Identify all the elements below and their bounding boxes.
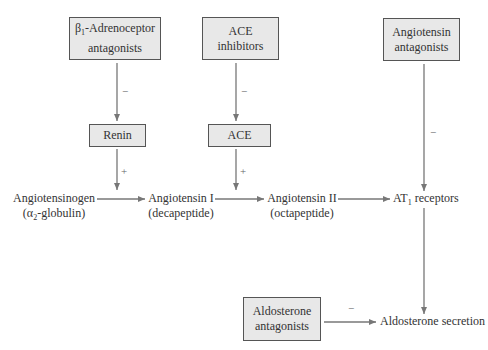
angiotensin-i-label: Angiotensin I: [145, 191, 217, 206]
ace-box: ACE: [208, 124, 271, 147]
ace-inhibitors-line1: ACE: [217, 24, 263, 39]
aldosterone-antagonists-line1: Aldosterone: [253, 304, 312, 319]
ace-inhibitors-box: ACE inhibitors: [202, 17, 279, 60]
sign-renin-plus: +: [121, 165, 127, 177]
angiotensin-ii-node: Angiotensin II (octapeptide): [264, 191, 340, 221]
angiotensin-ii-label: Angiotensin II: [264, 191, 340, 206]
sign-aldo-antag: −: [348, 302, 354, 314]
angiotensinogen-label: Angiotensinogen: [12, 191, 96, 206]
angiotensin-i-node: Angiotensin I (decapeptide): [145, 191, 217, 221]
sign-acei-to-ace: −: [241, 85, 247, 97]
ace-label: ACE: [228, 128, 252, 143]
sign-ace-plus: +: [240, 165, 246, 177]
angiotensinogen-node: Angiotensinogen (α2-globulin): [12, 191, 96, 225]
renin-box: Renin: [89, 124, 146, 147]
renin-label: Renin: [103, 128, 132, 143]
ace-inhibitors-line2: inhibitors: [217, 39, 263, 54]
beta-blocker-box: β1-Adrenoceptor antagonists: [69, 17, 161, 60]
angiotensin-i-sublabel: (decapeptide): [145, 206, 217, 221]
beta-blocker-line1: β1-Adrenoceptor: [75, 21, 155, 40]
angiotensin-antagonists-line2: antagonists: [392, 40, 451, 55]
at1-receptors-node: AT1 receptors: [393, 191, 459, 210]
angiotensin-antagonists-box: Angiotensin antagonists: [383, 18, 460, 61]
sign-ara-to-at1: −: [430, 126, 436, 138]
angiotensin-ii-sublabel: (octapeptide): [264, 206, 340, 221]
beta-blocker-line2: antagonists: [75, 41, 155, 56]
angiotensin-antagonists-line1: Angiotensin: [392, 25, 451, 40]
aldosterone-antagonists-line2: antagonists: [253, 319, 312, 334]
aldosterone-secretion-node: Aldosterone secretion: [380, 314, 485, 329]
angiotensinogen-sublabel: (α2-globulin): [12, 206, 96, 225]
sign-beta-to-renin: −: [122, 85, 128, 97]
aldosterone-antagonists-box: Aldosterone antagonists: [243, 297, 321, 341]
